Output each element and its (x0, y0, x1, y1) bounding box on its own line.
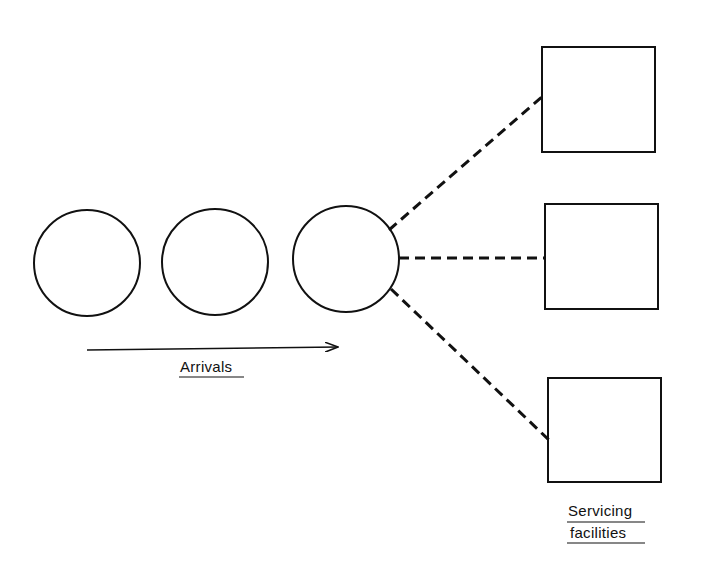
customer-circle-1 (34, 210, 140, 316)
facility-box-2 (545, 204, 658, 309)
servicing-label-line1: Servicing (568, 502, 632, 519)
customer-circle-2 (162, 209, 268, 315)
arrivals-label: Arrivals (180, 358, 232, 375)
connection-to-facility-3 (391, 289, 549, 440)
arrivals-arrow (87, 347, 338, 350)
queueing-diagram: Arrivals Servicing facilities (0, 0, 710, 567)
facility-box-1 (542, 47, 655, 152)
connection-to-facility-1 (389, 96, 543, 230)
facility-box-3 (548, 378, 661, 482)
servicing-label-line2: facilities (570, 524, 626, 541)
customer-circle-3 (293, 206, 399, 312)
